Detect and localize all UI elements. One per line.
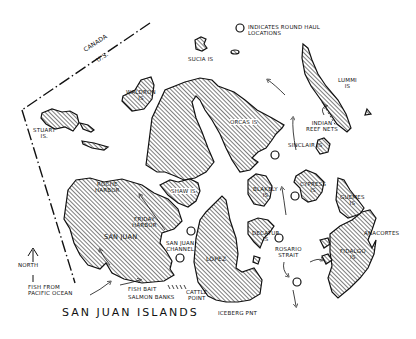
label-shaw: SHAW IS <box>171 188 196 194</box>
label-lopez: LOPEZ <box>206 256 226 262</box>
label-fish-from-pacific: FISH FROMPACIFIC OCEAN <box>28 284 73 296</box>
island-small-sucia <box>231 50 239 54</box>
label-lummi: LUMMIIS <box>338 77 357 89</box>
island-sucia <box>195 37 207 51</box>
label-sinclair: SINCLAIR IS <box>288 142 323 148</box>
label-indian-reef-nets: INDIANREEF NETS <box>306 120 338 132</box>
map-title: SAN JUAN ISLANDS <box>62 306 199 319</box>
label-cypress: CYPRESSIS <box>300 181 326 193</box>
label-orcas: ORCAS IS <box>230 119 257 125</box>
label-cattle-point: CATTLEPOINT <box>186 289 208 301</box>
label-san-juan-channel: SAN JUANCHANNEL <box>166 240 194 252</box>
label-fish-bait: FISH BAIT <box>128 286 156 292</box>
island-shapes <box>41 37 376 302</box>
label-sucia: SUCIA IS <box>188 56 213 62</box>
label-waldron: WALDRONIS <box>126 89 156 101</box>
label-salmon-banks: SALMON BANKS <box>128 294 175 300</box>
salmon-banks-marks <box>168 285 186 289</box>
legend-text: INDICATES ROUND HAULLOCATIONS <box>248 24 320 36</box>
label-decatur: DECATURIS <box>252 230 280 242</box>
label-blakely: BLAKELYIS <box>253 186 278 198</box>
label-guemes: GUEMESIS <box>340 194 365 206</box>
island-lopez <box>194 196 262 302</box>
legend-circle-icon <box>236 24 244 32</box>
label-roche-harbor: ROCHEHARBOR <box>95 181 120 193</box>
label-fidalgo: FIDALGOIS <box>340 248 366 260</box>
label-stuart: STUARTIS. <box>33 127 56 139</box>
label-anacortes: ANACORTES <box>364 230 399 236</box>
label-rosario-strait: ROSARIOSTRAIT <box>275 246 302 258</box>
island-orcas <box>146 78 284 180</box>
label-san-juan: SAN JUAN <box>104 234 137 240</box>
label-iceberg-point: ICEBERG PNT <box>218 310 257 316</box>
label-friday-harbor: FRIDAYHARBOR <box>132 216 157 228</box>
label-north: NORTH <box>18 262 38 268</box>
island-san-juan <box>64 178 182 283</box>
